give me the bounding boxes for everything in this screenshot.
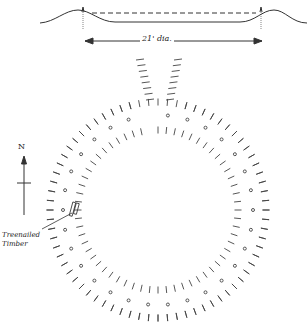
timber-pointer — [42, 202, 79, 229]
treenailed-timber-label: Treenailed Timber — [2, 231, 62, 249]
north-arrow-icon — [17, 156, 31, 215]
diameter-label: 21' dia. — [140, 34, 174, 43]
site-plan-drawing — [0, 0, 307, 323]
north-label: N — [18, 142, 25, 151]
profile-section — [40, 7, 307, 30]
enclosure-ring — [47, 59, 270, 322]
